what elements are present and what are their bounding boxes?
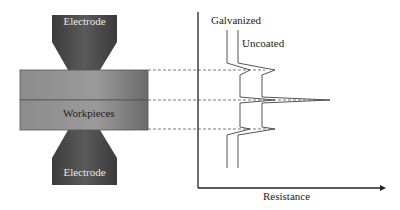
workpieces-label: Workpieces	[63, 107, 115, 119]
galvanized-label: Galvanized	[211, 14, 261, 26]
curve-uncoated	[238, 30, 330, 168]
electrode-top-label: Electrode	[52, 15, 117, 27]
curve-galvanized	[227, 30, 275, 168]
welding-resistance-diagram	[0, 0, 400, 210]
workpiece-upper	[20, 70, 148, 100]
uncoated-label: Uncoated	[242, 37, 284, 49]
dashed-guides	[148, 70, 330, 129]
x-axis-label: Resistance	[263, 190, 310, 202]
x-axis-arrow-icon	[380, 185, 386, 191]
electrode-bottom-label: Electrode	[52, 166, 117, 178]
